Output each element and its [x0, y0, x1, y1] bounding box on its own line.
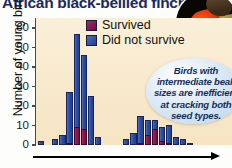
bar [152, 120, 158, 145]
bar [159, 127, 165, 145]
bar [95, 137, 101, 145]
bar [38, 141, 44, 145]
legend: Survived Did not survive [86, 19, 185, 49]
bar [187, 143, 193, 145]
legend-swatch-survived [86, 20, 97, 31]
legend-label-did-not-survive: Did not survive [102, 34, 185, 46]
bar-segment-survived [81, 129, 87, 145]
bar-segment-survived [159, 141, 165, 145]
bar [137, 116, 143, 145]
figure-root: African black-bellied finches 0102030405… [0, 0, 232, 168]
bar [166, 125, 172, 145]
bar [88, 96, 94, 145]
legend-swatch-did-not-survive [86, 35, 97, 46]
x-axis-shaft [33, 156, 215, 158]
bar-segment-survived [67, 143, 73, 145]
bar [145, 120, 151, 145]
bar-segment-survived [74, 127, 80, 145]
legend-item-survived: Survived [86, 19, 185, 31]
bar [81, 55, 87, 145]
y-tick-label: 0 [23, 139, 32, 151]
x-axis-arrowhead [211, 152, 220, 160]
bar [52, 139, 58, 145]
bar [123, 139, 129, 145]
legend-label-survived: Survived [102, 19, 151, 31]
page-title: African black-bellied finches [2, 0, 182, 11]
bar [59, 135, 65, 145]
bar-segment-survived [138, 143, 144, 145]
bar-segment-survived [145, 135, 151, 145]
bar [180, 139, 186, 145]
bar [173, 137, 179, 145]
x-axis-arrow [33, 152, 223, 162]
bar [66, 92, 72, 145]
bar-segment-survived [152, 129, 158, 145]
bar [130, 133, 136, 145]
bar-segment-survived [166, 143, 172, 145]
bar [74, 34, 80, 145]
legend-item-did-not-survive: Did not survive [86, 34, 185, 46]
callout-bubble: Birds with intermediate beak sizes are i… [146, 58, 232, 124]
y-axis-title: Number of young birds [11, 0, 25, 123]
callout-text: Birds with intermediate beak sizes are i… [150, 65, 232, 121]
